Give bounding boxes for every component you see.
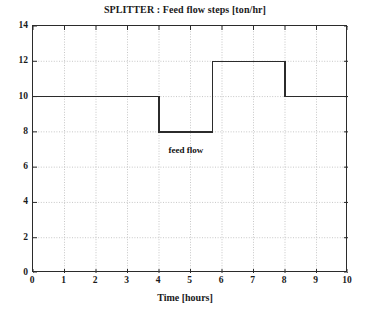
y-tick-label: 2 [2,232,28,242]
y-tick-label: 14 [2,20,28,30]
chart-screenshot: SPLITTER : Feed flow steps [ton/hr] 0246… [0,0,370,312]
y-tick-label: 12 [2,55,28,65]
y-tick-label: 4 [2,196,28,206]
x-tick-label: 9 [304,275,328,285]
x-tick-label: 7 [241,275,265,285]
y-tick-label: 10 [2,91,28,101]
x-tick-label: 4 [146,275,170,285]
series-annotation-feed-flow: feed flow [168,145,203,155]
plot-area: feed flow [32,25,347,272]
x-tick-label: 3 [115,275,139,285]
chart-title: SPLITTER : Feed flow steps [ton/hr] [0,4,370,15]
y-tick-label: 8 [2,126,28,136]
x-tick-label: 1 [52,275,76,285]
x-tick-label: 5 [178,275,202,285]
x-tick-label: 10 [335,275,359,285]
x-tick-label: 0 [20,275,44,285]
x-tick-label: 6 [209,275,233,285]
x-axis-tick-labels: 012345678910 [32,275,347,289]
x-axis-label: Time [hours] [0,292,370,303]
y-tick-label: 6 [2,161,28,171]
y-axis-tick-labels: 02468101214 [0,25,28,272]
x-tick-label: 8 [272,275,296,285]
x-tick-label: 2 [83,275,107,285]
